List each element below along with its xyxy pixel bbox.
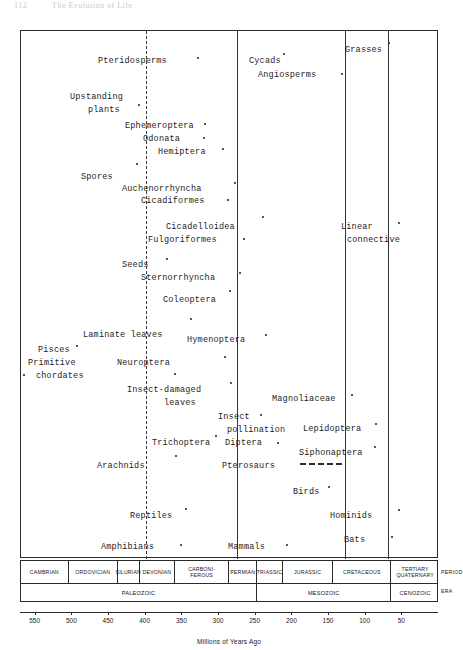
axis-tick-label: 550 — [29, 617, 40, 624]
event-data-point — [239, 272, 241, 274]
period-row-tag: PERIOD — [441, 569, 463, 575]
event-label: Primitive — [28, 358, 76, 368]
event-data-point — [262, 216, 264, 218]
period-cell: PERMIAN — [229, 561, 257, 583]
axis-tick — [401, 612, 402, 615]
event-label: pollination — [227, 425, 285, 435]
period-cell: TERTIARY QUATERNARY — [391, 561, 439, 583]
permian-line — [237, 31, 238, 559]
event-data-point — [215, 435, 217, 437]
event-label: plants — [88, 105, 120, 115]
event-data-point — [283, 53, 285, 55]
event-label: Seeds — [122, 260, 149, 270]
axis-tick — [108, 612, 109, 615]
event-data-point — [197, 57, 199, 59]
event-label: Spores — [81, 172, 113, 182]
event-data-point — [234, 182, 236, 184]
event-label: chordates — [36, 371, 84, 381]
axis-tick-label: 150 — [323, 617, 334, 624]
event-label: Ephemeroptera — [125, 121, 194, 131]
event-label: Upstanding — [70, 92, 123, 102]
event-data-point — [375, 423, 377, 425]
period-cell: TRIASSIC — [257, 561, 283, 583]
event-label: Reptiles — [130, 511, 172, 521]
axis-tick — [35, 612, 36, 615]
axis-tick-label: 100 — [359, 617, 370, 624]
period-cell: CAMBRIAN — [21, 561, 69, 583]
event-label: Laminate leaves — [83, 330, 163, 340]
time-axis-line — [20, 612, 438, 613]
period-cell: CRETACEOUS — [333, 561, 391, 583]
event-label: Hemiptera — [158, 147, 206, 157]
event-data-point — [243, 238, 245, 240]
era-cell: PALEOZOIC — [21, 584, 257, 602]
axis-tick — [218, 612, 219, 615]
event-data-point — [277, 442, 279, 444]
event-data-point — [190, 318, 192, 320]
event-label: Cycads — [249, 56, 281, 66]
period-cell: JURASSIC — [283, 561, 334, 583]
event-label: Hymenoptera — [187, 335, 245, 345]
event-label: Pteridosperms — [98, 56, 167, 66]
event-label: Pisces — [38, 345, 70, 355]
era-cell: MESOZOIC — [257, 584, 391, 602]
axis-tick — [291, 612, 292, 615]
axis-tick-label: 300 — [213, 617, 224, 624]
page-number: 112 — [14, 1, 27, 10]
event-data-point — [203, 137, 205, 139]
period-cell: ORDOVICIAN — [69, 561, 118, 583]
event-label: Cicadiformes — [141, 196, 205, 206]
era-row: PALEOZOICMESOZOICCENOZOIC — [21, 584, 437, 602]
event-data-point — [222, 148, 224, 150]
timeline-plot-area — [20, 30, 438, 558]
tertiary-line — [388, 31, 389, 559]
period-cell: CARBONI- FEROUS — [175, 561, 229, 583]
event-label: connective — [347, 235, 400, 245]
event-label: Insect-damaged — [127, 385, 201, 395]
devonian-dashed-line — [146, 31, 147, 559]
axis-tick-label: 500 — [66, 617, 77, 624]
event-data-point — [388, 42, 390, 44]
event-label: Magnoliaceae — [272, 394, 336, 404]
event-label: Coleoptera — [163, 295, 216, 305]
siphonaptera-connector — [300, 463, 342, 465]
axis-tick-label: 450 — [103, 617, 114, 624]
event-label: Linear — [341, 222, 373, 232]
axis-tick — [328, 612, 329, 615]
event-data-point — [229, 290, 231, 292]
page-header: 112 The Evolution of Life — [0, 0, 458, 14]
event-label: Siphonaptera — [299, 448, 363, 458]
event-data-point — [180, 544, 182, 546]
event-data-point — [286, 544, 288, 546]
period-row: CAMBRIANORDOVICIANSILURIANDEVONIANCARBON… — [21, 561, 437, 584]
page-running-title: The Evolution of Life — [52, 1, 132, 10]
period-cell: DEVONIAN — [140, 561, 175, 583]
event-label: Sternorrhyncha — [141, 273, 215, 283]
period-cell: SILURIAN — [118, 561, 140, 583]
axis-tick-label: 50 — [398, 617, 405, 624]
event-label: leaves — [164, 398, 196, 408]
event-label: Mammals — [228, 542, 265, 552]
event-label: Trichoptera — [152, 438, 210, 448]
event-label: Odonata — [143, 134, 180, 144]
axis-title: Millions of Years Ago — [0, 638, 458, 645]
event-label: Arachnids — [97, 461, 145, 471]
event-data-point — [391, 536, 393, 538]
axis-tick — [71, 612, 72, 615]
event-label: Lepidoptera — [303, 424, 361, 434]
event-data-point — [341, 73, 343, 75]
event-label: Insect — [218, 412, 250, 422]
axis-tick — [181, 612, 182, 615]
event-label: Bats — [344, 535, 365, 545]
axis-tick — [365, 612, 366, 615]
event-data-point — [175, 455, 177, 457]
event-data-point — [76, 345, 78, 347]
era-cell: CENOZOIC — [391, 584, 439, 602]
event-data-point — [265, 334, 267, 336]
axis-tick-label: 250 — [249, 617, 260, 624]
geologic-time-table: CAMBRIANORDOVICIANSILURIANDEVONIANCARBON… — [20, 560, 438, 602]
event-label: Pterosaurs — [222, 461, 275, 471]
axis-tick-label: 200 — [286, 617, 297, 624]
cretaceous-line — [345, 31, 346, 559]
event-data-point — [204, 123, 206, 125]
